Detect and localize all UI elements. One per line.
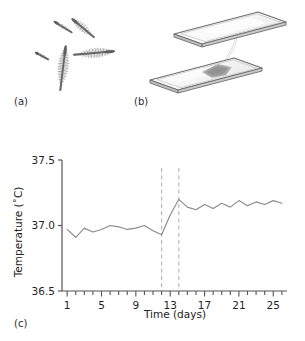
sperm-4 xyxy=(55,45,71,91)
sperm-bristle xyxy=(68,30,69,31)
sperm-bristle xyxy=(92,35,93,36)
x-tick-label: 1 xyxy=(64,299,71,311)
sperm-5 xyxy=(73,47,115,60)
y-axis-label: Temperature (˚C) xyxy=(12,187,24,279)
y-axis: 36.537.037.5 xyxy=(32,154,62,297)
y-tick-label: 37.5 xyxy=(32,154,55,166)
panel-b-label: (b) xyxy=(134,96,148,107)
x-tick-label: 13 xyxy=(164,299,177,311)
x-tick-label: 17 xyxy=(198,299,211,311)
x-tick-label: 25 xyxy=(267,299,280,311)
y-tick-label: 37.0 xyxy=(32,219,55,231)
panel-a-label: (a) xyxy=(14,96,28,107)
sperm-3 xyxy=(35,51,50,61)
panel-c-label: (c) xyxy=(14,318,27,329)
figure-root: (a) xyxy=(0,0,305,341)
x-tick-label: 5 xyxy=(98,299,105,311)
sperm-cells-group xyxy=(35,16,115,91)
panel-c-chart: Temperature (˚C) Time (days) 36.537.037.… xyxy=(0,122,305,341)
lower-slide xyxy=(150,58,262,93)
series-line-basal-body-temperature xyxy=(67,199,282,237)
sperm-2 xyxy=(70,16,97,40)
temperature-chart-svg: Temperature (˚C) Time (days) 36.537.037.… xyxy=(0,122,305,341)
microscope-slides-svg xyxy=(140,0,305,120)
panel-b-slides xyxy=(140,0,305,120)
x-tick-label: 9 xyxy=(133,299,140,311)
chart-series xyxy=(67,199,282,237)
upper-slide xyxy=(174,12,286,47)
x-tick-label: 21 xyxy=(232,299,245,311)
x-axis: 15913172125 xyxy=(62,291,287,311)
sperm-1 xyxy=(53,20,73,34)
sperm-bristle xyxy=(94,37,95,38)
y-tick-label: 36.5 xyxy=(32,285,55,297)
